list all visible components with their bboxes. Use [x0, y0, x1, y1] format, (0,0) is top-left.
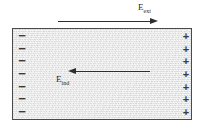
plus-sign: +: [179, 83, 193, 91]
plus-sign: +: [179, 70, 193, 78]
induced-field-label: Eind: [56, 75, 69, 86]
plus-sign: +: [179, 108, 193, 116]
positive-charge-column: + + + + + + +: [179, 32, 193, 116]
plus-sign: +: [179, 57, 193, 65]
arrow-head-left: [68, 68, 76, 74]
minus-sign: −: [15, 83, 29, 91]
arrow-head-right: [150, 18, 158, 24]
minus-sign: −: [15, 45, 29, 53]
minus-sign: −: [15, 32, 29, 40]
external-field-label: Eext: [138, 3, 151, 14]
plus-sign: +: [179, 95, 193, 103]
induced-field-subscript: ind: [62, 80, 70, 86]
negative-charge-column: − − − − − − −: [15, 32, 29, 116]
minus-sign: −: [15, 70, 29, 78]
minus-sign: −: [15, 108, 29, 116]
arrow-shaft: [76, 71, 150, 72]
physics-figure: − − − − − − − + + + + + + + Eext Eind: [0, 0, 204, 130]
arrow-shaft: [58, 21, 151, 22]
external-field-subscript: ext: [144, 8, 152, 14]
plus-sign: +: [179, 45, 193, 53]
minus-sign: −: [15, 95, 29, 103]
external-field-arrow-icon: [58, 16, 158, 25]
plus-sign: +: [179, 32, 193, 40]
induced-field-arrow-icon: [68, 66, 150, 75]
minus-sign: −: [15, 57, 29, 65]
